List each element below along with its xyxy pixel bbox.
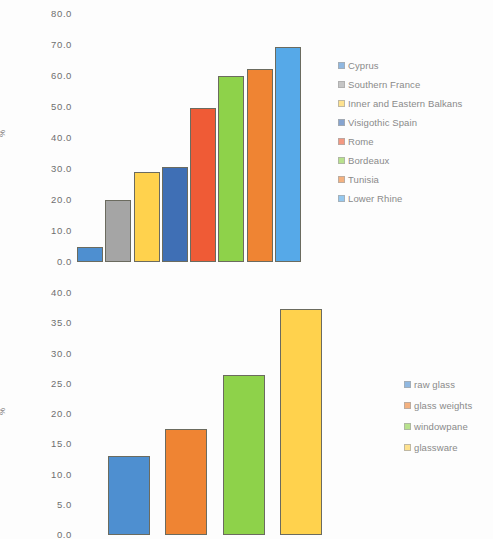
legend-item[interactable]: glassware [404,437,472,458]
legend-item[interactable]: Rome [338,132,462,151]
bar-slot [215,293,273,535]
bar[interactable] [77,247,103,263]
legend-swatch-icon [338,195,345,202]
y-tick-label: 5.0 [0,500,72,510]
top-chart-legend: CyprusSouthern FranceInner and Eastern B… [338,56,462,208]
legend-item-label: Lower Rhine [348,193,402,204]
bar-slot [76,14,104,262]
y-tick-label: 0.0 [0,257,72,267]
legend-swatch-icon [338,100,345,107]
y-tick-label: 35.0 [0,318,72,328]
bar[interactable] [108,456,150,535]
legend-item-label: Inner and Eastern Balkans [348,98,462,109]
legend-item-label: raw glass [414,379,455,390]
legend-item[interactable]: Southern France [338,75,462,94]
bottom-chart-legend: raw glassglass weightswindowpaneglasswar… [404,374,472,458]
legend-item[interactable]: raw glass [404,374,472,395]
y-tick-label: 70.0 [0,40,72,50]
legend-item-label: glass weights [414,400,472,411]
legend-item-label: Rome [348,136,374,147]
legend-item[interactable]: glass weights [404,395,472,416]
y-tick-label: 10.0 [0,226,72,236]
y-tick-label: 20.0 [0,409,72,419]
y-tick-label: 20.0 [0,195,72,205]
legend-swatch-icon [404,402,411,409]
bar-slot [161,14,189,262]
legend-item-label: Southern France [348,79,420,90]
legend-swatch-icon [338,62,345,69]
legend-item-label: glassware [414,442,458,453]
bar[interactable] [105,200,131,262]
legend-item[interactable]: windowpane [404,416,472,437]
bar[interactable] [190,108,216,262]
y-tick-label: 60.0 [0,71,72,81]
bar-slot [189,14,217,262]
bar-slot [100,293,158,535]
y-tick-label: 40.0 [0,288,72,298]
legend-swatch-icon [404,444,411,451]
bar[interactable] [223,375,265,535]
top-chart-plot-area [76,14,302,262]
y-tick-label: 10.0 [0,470,72,480]
y-tick-label: 80.0 [0,9,72,19]
legend-swatch-icon [338,119,345,126]
bar[interactable] [247,69,273,262]
legend-item[interactable]: Inner and Eastern Balkans [338,94,462,113]
legend-item-label: windowpane [414,421,468,432]
legend-swatch-icon [338,81,345,88]
bottom-bar-chart: % 40.035.030.025.020.015.010.05.00.0 raw… [0,280,493,539]
bar[interactable] [162,167,188,262]
bar[interactable] [280,309,322,535]
bar-slot [273,293,331,535]
y-tick-label: 40.0 [0,133,72,143]
bar-slot [246,14,274,262]
bar-slot [133,14,161,262]
bar[interactable] [275,47,301,262]
legend-item[interactable]: Lower Rhine [338,189,462,208]
legend-item-label: Visigothic Spain [348,117,417,128]
bar[interactable] [218,76,244,262]
legend-item-label: Cyprus [348,60,379,71]
y-tick-label: 25.0 [0,379,72,389]
bar-slot [217,14,245,262]
legend-item-label: Tunisia [348,174,379,185]
y-tick-label: 30.0 [0,164,72,174]
y-tick-label: 15.0 [0,439,72,449]
y-tick-label: 50.0 [0,102,72,112]
bar-slot [158,293,216,535]
bar-slot [274,14,302,262]
bar[interactable] [165,429,207,535]
legend-item-label: Bordeaux [348,155,389,166]
legend-item[interactable]: Tunisia [338,170,462,189]
chart-page: % 80.070.060.050.040.030.020.010.00.0 Cy… [0,0,493,539]
legend-swatch-icon [338,157,345,164]
legend-swatch-icon [338,176,345,183]
legend-item[interactable]: Visigothic Spain [338,113,462,132]
legend-swatch-icon [338,138,345,145]
y-tick-label: 0.0 [0,530,72,539]
legend-swatch-icon [404,423,411,430]
bottom-chart-plot-area [100,293,330,535]
legend-item[interactable]: Bordeaux [338,151,462,170]
top-bar-chart: % 80.070.060.050.040.030.020.010.00.0 Cy… [0,0,493,280]
bar[interactable] [134,172,160,262]
legend-swatch-icon [404,381,411,388]
legend-item[interactable]: Cyprus [338,56,462,75]
y-tick-label: 30.0 [0,349,72,359]
bar-slot [104,14,132,262]
